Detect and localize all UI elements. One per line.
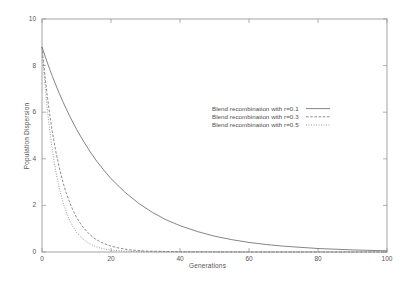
x-tick-label: 0 bbox=[27, 255, 57, 262]
y-axis-title-wrap: Population Dispersion bbox=[15, 66, 33, 206]
legend-label-2: Blend recombination with r=0.3 bbox=[212, 113, 299, 120]
series-line-2 bbox=[42, 47, 387, 252]
x-tick-label: 20 bbox=[96, 255, 126, 262]
chart-figure: Generations Population Dispersion 020406… bbox=[0, 0, 415, 284]
y-tick-label: 0 bbox=[12, 248, 36, 255]
y-axis-ticks bbox=[42, 19, 387, 252]
y-tick-label: 8 bbox=[12, 62, 36, 69]
x-tick-label: 100 bbox=[372, 255, 402, 262]
series-line-3 bbox=[42, 47, 387, 252]
plot-frame bbox=[42, 19, 387, 252]
x-tick-label: 40 bbox=[165, 255, 195, 262]
legend-line-samples bbox=[306, 109, 330, 125]
x-axis-title: Generations bbox=[0, 262, 415, 269]
legend-label-3: Blend recombination with r=0.5 bbox=[212, 121, 299, 128]
series-line-1 bbox=[42, 47, 387, 251]
y-tick-label: 2 bbox=[12, 201, 36, 208]
x-tick-label: 80 bbox=[303, 255, 333, 262]
y-tick-label: 10 bbox=[12, 15, 36, 22]
series-layer bbox=[42, 47, 387, 252]
y-tick-label: 6 bbox=[12, 108, 36, 115]
x-tick-label: 60 bbox=[234, 255, 264, 262]
x-axis-ticks bbox=[42, 19, 387, 252]
legend-label-1: Blend recombination with r=0.1 bbox=[212, 105, 299, 112]
population-dispersion-line-chart bbox=[0, 0, 415, 284]
y-tick-label: 4 bbox=[12, 155, 36, 162]
